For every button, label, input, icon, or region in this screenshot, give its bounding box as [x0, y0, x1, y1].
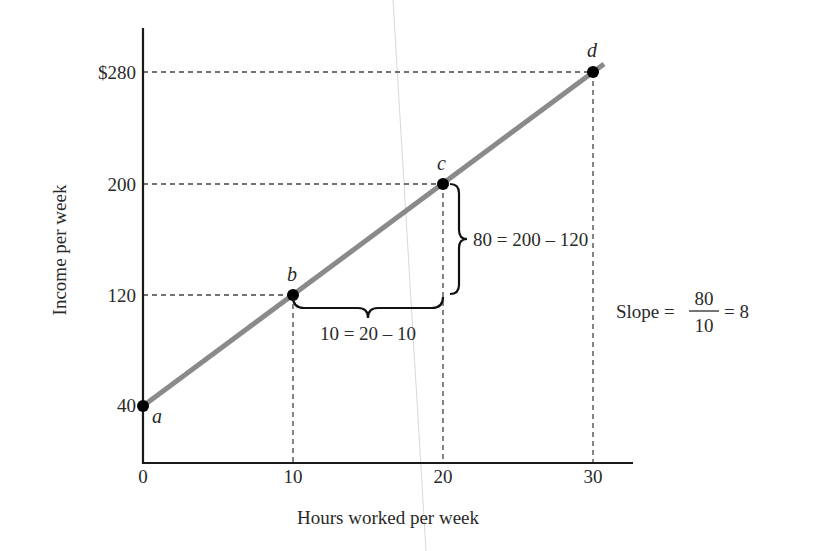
- y-axis-title: Income per week: [49, 184, 70, 315]
- scan-artifact-line: [393, 0, 426, 551]
- point-c: [437, 178, 449, 190]
- y-tick-labels: 40 120 200 $280: [98, 62, 136, 416]
- y-tick-200: 200: [108, 174, 137, 195]
- y-tick-120: 120: [108, 285, 137, 306]
- point-d: [587, 66, 599, 78]
- rise-annotation: 80 = 200 – 120: [473, 229, 588, 250]
- point-label-c: c: [437, 152, 446, 174]
- x-tick-10: 10: [284, 466, 303, 487]
- point-label-a: a: [152, 405, 162, 427]
- y-tick-280: $280: [98, 62, 136, 83]
- rise-brace: [450, 184, 467, 294]
- run-brace: [293, 297, 443, 318]
- slope-numerator: 80: [695, 288, 714, 309]
- income-slope-chart: a b c d 40 120 200 $280 0 10 20 30 Hours…: [0, 0, 813, 551]
- x-axis-title: Hours worked per week: [297, 507, 480, 528]
- point-label-b: b: [287, 263, 297, 285]
- point-label-d: d: [587, 39, 598, 61]
- point-a: [137, 400, 149, 412]
- guide-lines: [143, 72, 593, 463]
- slope-prefix: Slope =: [616, 301, 675, 322]
- x-tick-0: 0: [138, 466, 148, 487]
- y-tick-40: 40: [117, 395, 136, 416]
- slope-formula: Slope = 80 10 = 8: [616, 288, 749, 336]
- run-annotation: 10 = 20 – 10: [320, 323, 416, 344]
- slope-denominator: 10: [695, 315, 714, 336]
- x-tick-20: 20: [434, 466, 453, 487]
- slope-result: = 8: [724, 301, 749, 322]
- x-tick-labels: 0 10 20 30: [138, 466, 602, 487]
- x-tick-30: 30: [584, 466, 603, 487]
